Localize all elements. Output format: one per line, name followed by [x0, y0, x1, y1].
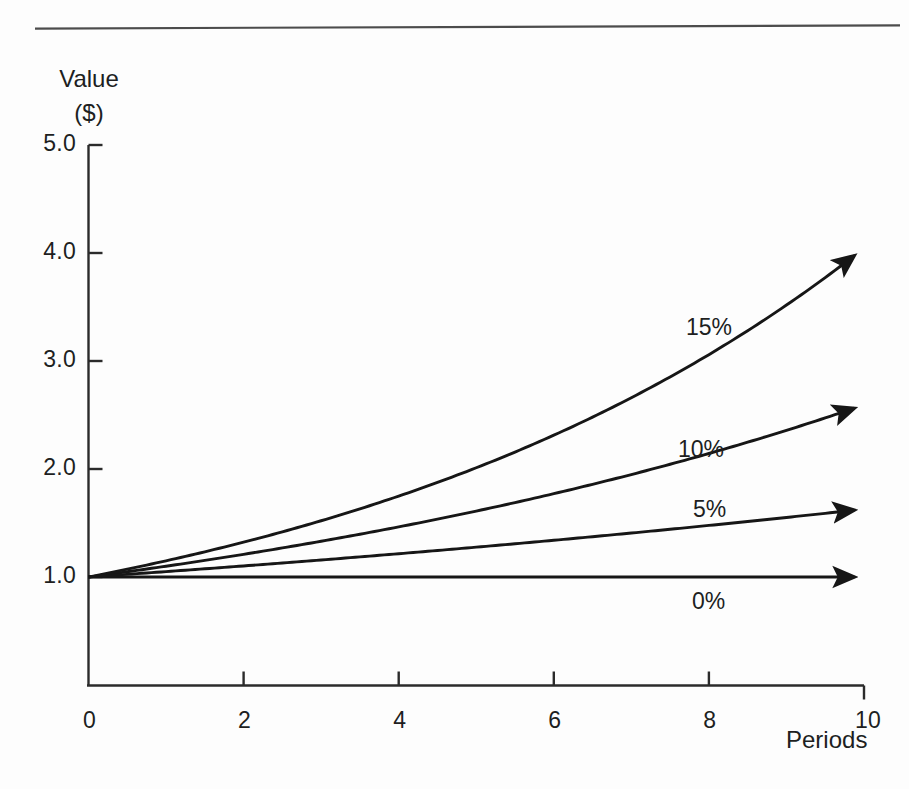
series-label: 5% — [693, 496, 726, 523]
y-axis-title-line2: ($) — [57, 96, 121, 130]
y-tick-label: 3.0 — [22, 346, 76, 373]
x-tick-label: 4 — [390, 707, 410, 734]
chart-canvas — [0, 0, 909, 789]
axes-group — [87, 145, 864, 686]
y-axis-title: Value ($) — [57, 62, 121, 130]
y-axis-title-line1: Value — [57, 62, 121, 96]
compound-interest-chart: Value ($) Periods 1.02.03.04.05.0 024681… — [0, 0, 909, 789]
series-curves — [89, 256, 855, 577]
x-tick-label: 0 — [80, 707, 100, 734]
curve-0.05 — [89, 510, 855, 577]
top-divider-rule — [35, 25, 900, 28]
series-label: 10% — [678, 436, 724, 463]
y-tick-label: 4.0 — [22, 238, 76, 265]
x-tick-label: 8 — [700, 707, 720, 734]
x-tick-label: 10 — [855, 707, 875, 734]
y-tick-label: 1.0 — [22, 562, 76, 589]
x-tick-label: 2 — [235, 707, 255, 734]
series-label: 0% — [692, 588, 725, 615]
y-axis-ticks — [89, 145, 103, 577]
y-tick-label: 5.0 — [22, 130, 76, 157]
series-label: 15% — [686, 314, 732, 341]
y-tick-label: 2.0 — [22, 454, 76, 481]
curve-0.15 — [89, 256, 855, 577]
x-tick-label: 6 — [545, 707, 565, 734]
